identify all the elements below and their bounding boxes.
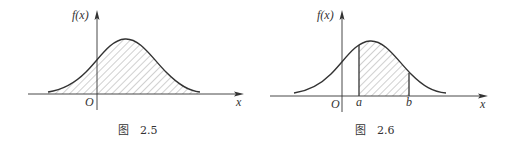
caption-number: 2.6 — [377, 124, 395, 137]
caption-prefix: 图 — [355, 124, 366, 137]
shaded-area — [294, 41, 446, 96]
x-axis-label: x — [235, 95, 242, 109]
figure-2-5: f(x) O x 图 2.5 — [28, 8, 244, 137]
y-axis-label: f(x) — [72, 8, 89, 22]
shaded-area — [48, 39, 200, 94]
caption-number: 2.5 — [140, 124, 158, 137]
bound-a-label: a — [356, 95, 362, 109]
origin-label: O — [85, 95, 94, 109]
origin-label: O — [331, 97, 340, 111]
bound-b-label: b — [406, 95, 412, 109]
y-axis-label: f(x) — [317, 8, 334, 22]
x-axis-label: x — [479, 97, 486, 111]
caption-prefix: 图 — [118, 124, 129, 137]
figures-canvas: f(x) O x 图 2.5 f(x) O a b x 图 2.6 — [0, 0, 510, 148]
figure-2-6: f(x) O a b x 图 2.6 — [270, 8, 488, 137]
